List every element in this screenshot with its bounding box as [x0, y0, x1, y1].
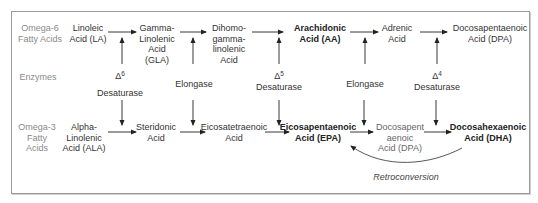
pathway-arrows [0, 0, 538, 203]
retroconversion-arrow [351, 146, 462, 162]
